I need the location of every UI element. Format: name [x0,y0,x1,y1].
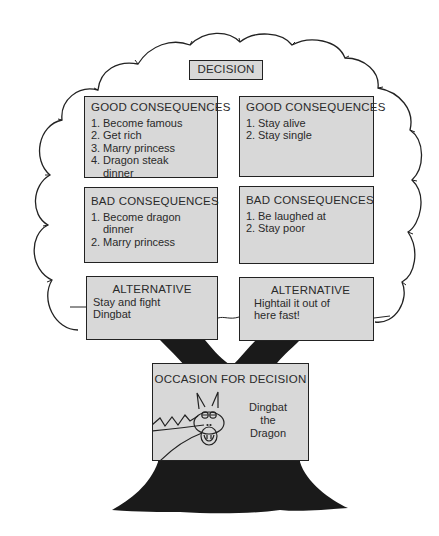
list-item: 2.Stay single [246,129,367,142]
bad-consequences-title: BAD CONSEQUENCES [246,194,367,207]
bad-consequences-box-left: BAD CONSEQUENCES 1.Become dragon dinner … [84,187,218,263]
alternative-title: ALTERNATIVE [254,284,367,297]
list-item: 2.Marry princess [91,236,211,249]
bad-consequences-box-right: BAD CONSEQUENCES 1.Be laughed at 2.Stay … [239,186,374,264]
alternative-box-right: ALTERNATIVE Hightail it out of here fast… [239,277,374,341]
list-item: 3.Marry princess [91,142,211,155]
list-item: 4.Dragon steak dinner [91,154,171,179]
good-consequences-title: GOOD CONSEQUENCES [246,101,367,114]
decision-box: DECISION [189,60,263,80]
good-consequences-title: GOOD CONSEQUENCES [91,101,211,114]
good-consequences-box-right: GOOD CONSEQUENCES 1.Stay alive 2.Stay si… [239,96,374,177]
list-item: 1.Stay alive [246,117,367,130]
list-item: 1.Be laughed at [246,210,367,223]
list-item: 1.Become famous [91,117,211,130]
alternative-text: Hightail it out of here fast! [254,297,354,322]
list-item: 1.Become dragon dinner [91,211,191,236]
alternative-title: ALTERNATIVE [93,283,211,296]
dragon-caption: Dingbat the Dragon [245,401,291,440]
list-item: 2.Get rich [91,129,211,142]
alternative-text: Stay and fight Dingbat [93,296,173,321]
decision-label: DECISION [197,63,254,75]
alternative-box-left: ALTERNATIVE Stay and fight Dingbat [86,276,218,340]
occasion-box: OCCASION FOR DECISION Dingbat the Dragon [152,363,309,461]
bad-consequences-title: BAD CONSEQUENCES [91,195,211,208]
list-item: 2.Stay poor [246,222,367,235]
good-consequences-box-left: GOOD CONSEQUENCES 1.Become famous 2.Get … [84,96,218,178]
